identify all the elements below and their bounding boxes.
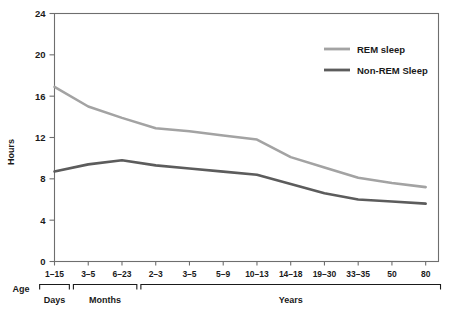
y-axis-title: Hours xyxy=(6,139,16,165)
x-tick-label: 1–15 xyxy=(45,269,64,279)
y-tick-label: 16 xyxy=(35,91,46,102)
x-tick-label: 80 xyxy=(421,269,431,279)
x-tick-label: 3–5 xyxy=(182,269,196,279)
y-tick-label: 24 xyxy=(35,8,46,19)
group-label-days: Days xyxy=(44,295,66,305)
x-tick-label: 19–30 xyxy=(313,269,337,279)
chart-canvas: 04812162024 Hours 1–153–56–232–33–55–910… xyxy=(0,0,450,318)
x-tick-label: 6–23 xyxy=(113,269,132,279)
x-tick-label: 14–18 xyxy=(279,269,303,279)
legend-label-non-rem-sleep: Non-REM Sleep xyxy=(357,65,428,76)
group-label-years: Years xyxy=(279,295,303,305)
group-label-months: Months xyxy=(89,295,121,305)
y-tick-label: 4 xyxy=(40,215,46,226)
x-tick-label: 33–35 xyxy=(346,269,370,279)
x-tick-label: 5–9 xyxy=(216,269,230,279)
x-tick-label: 2–3 xyxy=(149,269,163,279)
legend-label-rem-sleep: REM sleep xyxy=(357,44,405,55)
x-tick-label: 3–5 xyxy=(81,269,95,279)
y-tick-label: 0 xyxy=(40,256,45,267)
sleep-hours-by-age-chart: 04812162024 Hours 1–153–56–232–33–55–910… xyxy=(0,0,450,318)
y-tick-label: 12 xyxy=(35,132,46,143)
x-axis-title: Age xyxy=(12,284,29,294)
y-tick-label: 20 xyxy=(35,49,46,60)
y-tick-label: 8 xyxy=(40,173,45,184)
x-tick-label: 50 xyxy=(387,269,397,279)
x-tick-label: 10–13 xyxy=(245,269,269,279)
